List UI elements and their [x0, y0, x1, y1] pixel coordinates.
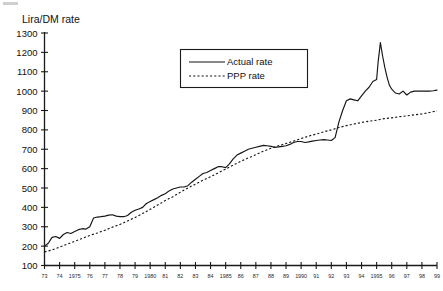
chart-container: Lira/DM rate 100200300400500600700800900…: [0, 0, 443, 291]
x-tick-label: 81: [162, 273, 168, 279]
x-tick-label: 76: [87, 273, 93, 279]
x-tick-label: 96: [389, 273, 395, 279]
x-tick-label: 91: [313, 273, 319, 279]
y-tick-label: 1300: [16, 28, 37, 39]
x-tick-label: 84: [208, 273, 214, 279]
x-tick-label: 1990: [295, 273, 307, 279]
y-tick-group: 1002003004005006007008009001000110012001…: [16, 28, 48, 272]
y-axis-group: 1002003004005006007008009001000110012001…: [16, 28, 48, 272]
y-tick-label: 1100: [17, 66, 37, 77]
y-tick-label: 900: [22, 105, 38, 116]
x-tick-label: 77: [102, 273, 108, 279]
x-tick-label: 1985: [220, 273, 232, 279]
x-tick-label: 98: [419, 273, 425, 279]
y-tick-label: 100: [22, 260, 38, 271]
x-tick-label: 1975: [69, 273, 81, 279]
x-tick-label: 79: [132, 273, 138, 279]
x-tick-label: 93: [343, 273, 349, 279]
y-tick-label: 1000: [16, 86, 37, 97]
y-tick-label: 600: [22, 163, 38, 174]
x-tick-label: 88: [268, 273, 274, 279]
x-axis-group: 7374197576777879198081828384198586878889…: [42, 262, 441, 279]
x-tick-label: 92: [328, 273, 334, 279]
x-tick-label: 1980: [144, 273, 156, 279]
x-tick-label: 89: [283, 273, 289, 279]
y-tick-label: 1200: [16, 47, 37, 58]
x-tick-group: 7374197576777879198081828384198586878889…: [42, 262, 441, 279]
x-tick-label: 87: [253, 273, 259, 279]
x-tick-label: 1995: [371, 273, 383, 279]
legend-label-actual-rate: Actual rate: [227, 56, 272, 67]
y-tick-label: 400: [22, 202, 38, 213]
x-tick-label: 83: [192, 273, 198, 279]
x-tick-label: 74: [57, 273, 63, 279]
x-tick-label: 82: [177, 273, 183, 279]
x-tick-label: 94: [359, 273, 365, 279]
y-tick-label: 700: [22, 144, 38, 155]
line-chart-plot: 1002003004005006007008009001000110012001…: [0, 0, 443, 291]
y-tick-label: 300: [22, 221, 38, 232]
series-line-ppp-rate: [45, 111, 438, 252]
x-tick-label: 97: [404, 273, 410, 279]
x-tick-label: 78: [117, 273, 123, 279]
legend-label-ppp-rate: PPP rate: [227, 70, 265, 81]
x-tick-label: 86: [238, 273, 244, 279]
y-tick-label: 200: [22, 241, 38, 252]
y-tick-label: 800: [22, 124, 38, 135]
x-tick-label: 99: [434, 273, 440, 279]
legend: Actual rate PPP rate: [181, 50, 308, 88]
y-tick-label: 500: [22, 183, 38, 194]
x-tick-label: 73: [42, 273, 48, 279]
